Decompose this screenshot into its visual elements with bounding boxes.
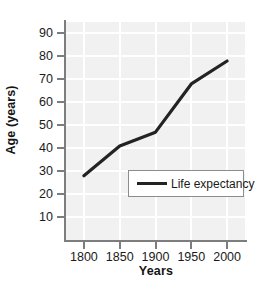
y-axis-tick <box>57 55 65 57</box>
legend-line-swatch <box>137 182 167 185</box>
y-axis-tick <box>57 193 65 195</box>
y-axis-tick-label: 40 <box>13 141 53 155</box>
gridline-vertical <box>119 22 121 240</box>
y-axis-tick <box>57 216 65 218</box>
y-axis-tick <box>57 147 65 149</box>
y-axis-tick-label: 10 <box>13 210 53 224</box>
y-axis-tick-label: 30 <box>13 164 53 178</box>
x-axis-tick <box>190 241 192 249</box>
y-axis-tick-label: 80 <box>13 49 53 63</box>
y-axis-tick-label: 70 <box>13 72 53 86</box>
gridline-vertical <box>226 22 228 240</box>
y-axis-tick-label: 50 <box>13 118 53 132</box>
y-axis-tick <box>57 32 65 34</box>
y-axis-tick-label: 20 <box>13 187 53 201</box>
plot-area <box>66 22 245 240</box>
legend-label: Life expectancy <box>171 177 254 191</box>
x-axis-title: Years <box>66 264 246 278</box>
y-axis-tick <box>57 101 65 103</box>
y-axis-tick <box>57 78 65 80</box>
x-axis-tick <box>226 241 228 249</box>
y-axis-tick <box>57 124 65 126</box>
y-axis-tick-label: 90 <box>13 26 53 40</box>
x-axis-tick <box>83 241 85 249</box>
y-axis-line <box>64 20 66 242</box>
gridline-vertical <box>155 22 157 240</box>
gridline-vertical <box>190 22 192 240</box>
x-axis-tick <box>119 241 121 249</box>
y-axis-tick-label: 60 <box>13 95 53 109</box>
gridline-vertical <box>83 22 85 240</box>
chart-legend: Life expectancy <box>128 170 244 197</box>
x-axis-tick <box>155 241 157 249</box>
x-axis-tick-label: 2000 <box>204 250 250 264</box>
line-chart-figure: Age (years) 1020304050607080901800185019… <box>0 0 275 290</box>
y-axis-tick <box>57 170 65 172</box>
